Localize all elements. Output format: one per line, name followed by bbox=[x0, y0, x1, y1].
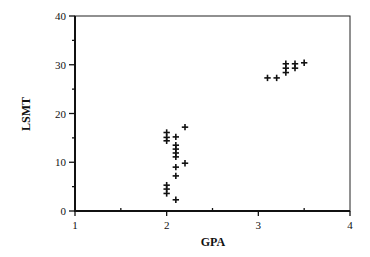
plus-marker-icon bbox=[163, 190, 169, 196]
x-tick-label: 4 bbox=[347, 219, 353, 231]
plus-marker-icon bbox=[283, 69, 289, 75]
plus-marker-icon bbox=[173, 197, 179, 203]
y-axis-title: LSMT bbox=[19, 97, 33, 131]
plus-marker-icon bbox=[301, 60, 307, 66]
y-tick-label: 0 bbox=[61, 205, 67, 217]
y-tick-label: 30 bbox=[55, 59, 67, 71]
plus-marker-icon bbox=[173, 173, 179, 179]
x-tick-label: 3 bbox=[256, 219, 262, 231]
plus-marker-icon bbox=[264, 75, 270, 81]
plus-marker-icon bbox=[173, 134, 179, 140]
plot-frame bbox=[74, 16, 350, 212]
plus-marker-icon bbox=[182, 124, 188, 130]
x-axis-title: GPA bbox=[201, 235, 226, 249]
plus-marker-icon bbox=[173, 164, 179, 170]
x-tick-label: 1 bbox=[72, 219, 78, 231]
y-tick-label: 10 bbox=[55, 156, 67, 168]
plus-marker-icon bbox=[163, 138, 169, 144]
plus-marker-icon bbox=[173, 154, 179, 160]
scatter-chart: 1234010203040 GPA LSMT bbox=[0, 0, 370, 257]
axis-ticks bbox=[69, 16, 350, 216]
plus-marker-icon bbox=[273, 75, 279, 81]
tick-labels: 1234010203040 bbox=[55, 10, 353, 231]
y-tick-label: 40 bbox=[55, 10, 67, 22]
plus-marker-icon bbox=[292, 65, 298, 71]
plus-marker-icon bbox=[182, 160, 188, 166]
data-points bbox=[163, 60, 307, 203]
plot-border bbox=[75, 16, 350, 211]
y-tick-label: 20 bbox=[55, 108, 67, 120]
x-tick-label: 2 bbox=[164, 219, 170, 231]
